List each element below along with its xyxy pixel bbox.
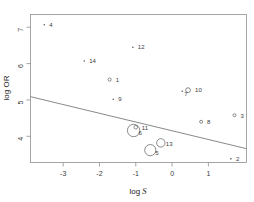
x-axis-title-plain: log bbox=[129, 187, 140, 196]
point-label: 2 bbox=[236, 156, 240, 162]
point-label: 3 bbox=[241, 113, 245, 119]
point-dot-marker bbox=[83, 60, 85, 62]
point-bubble-marker bbox=[233, 114, 236, 117]
y-axis-ticks: 7654 bbox=[18, 27, 31, 141]
data-point-2: 2 bbox=[230, 156, 240, 162]
point-label: 11 bbox=[142, 125, 149, 131]
y-axis-title: log OR bbox=[2, 75, 11, 100]
data-point-3: 3 bbox=[233, 113, 245, 119]
x-tick-label: 1 bbox=[206, 170, 210, 177]
point-bubble-marker bbox=[145, 145, 156, 156]
data-point-13: 13 bbox=[157, 139, 174, 147]
point-label: 8 bbox=[207, 119, 211, 125]
point-label: 10 bbox=[195, 87, 202, 93]
point-label: 9 bbox=[118, 96, 122, 102]
x-axis-title-italic: S bbox=[142, 186, 147, 196]
plot-canvas: -3-2-101 7654 4121411079381161352 log S … bbox=[0, 0, 254, 202]
point-dot-marker bbox=[132, 46, 134, 48]
x-tick-label: 0 bbox=[170, 170, 174, 177]
y-tick-label: 6 bbox=[18, 64, 25, 68]
point-dot-marker bbox=[43, 24, 45, 26]
data-point-12: 12 bbox=[132, 44, 145, 50]
data-point-1: 1 bbox=[108, 77, 120, 83]
x-tick-label: -2 bbox=[96, 170, 102, 177]
data-point-10: 10 bbox=[186, 87, 203, 93]
point-dot-marker bbox=[230, 158, 232, 160]
x-axis-title: log S bbox=[129, 186, 147, 196]
point-label: 6 bbox=[139, 130, 143, 136]
data-point-5: 5 bbox=[145, 145, 160, 156]
point-label: 7 bbox=[184, 91, 188, 97]
data-point-6: 6 bbox=[127, 124, 142, 136]
data-point-14: 14 bbox=[83, 58, 96, 64]
point-dot-marker bbox=[112, 98, 114, 100]
x-axis-ticks: -3-2-101 bbox=[60, 163, 210, 177]
x-tick-label: -1 bbox=[133, 170, 139, 177]
regression-fit-line bbox=[31, 97, 247, 149]
point-bubble-marker bbox=[200, 120, 203, 123]
point-bubble-marker bbox=[134, 125, 138, 129]
data-point-7: 7 bbox=[181, 90, 188, 97]
point-label: 12 bbox=[138, 44, 145, 50]
y-tick-label: 5 bbox=[18, 100, 25, 104]
point-dot-marker bbox=[181, 90, 183, 92]
data-point-8: 8 bbox=[200, 119, 212, 125]
regression-line bbox=[31, 97, 247, 149]
point-label: 14 bbox=[89, 58, 96, 64]
point-label: 13 bbox=[166, 141, 173, 147]
point-bubble-marker bbox=[157, 139, 165, 147]
point-label: 4 bbox=[49, 22, 53, 28]
y-tick-label: 4 bbox=[18, 137, 25, 141]
point-label: 5 bbox=[155, 150, 159, 156]
point-bubble-marker bbox=[108, 78, 111, 81]
plot-frame-border bbox=[31, 15, 247, 163]
point-label: 1 bbox=[116, 77, 120, 83]
scatter-plot-figure: -3-2-101 7654 4121411079381161352 log S … bbox=[0, 0, 254, 202]
y-tick-label: 7 bbox=[18, 28, 25, 32]
x-tick-label: -3 bbox=[60, 170, 66, 177]
data-point-4: 4 bbox=[43, 22, 53, 28]
data-point-9: 9 bbox=[112, 96, 122, 102]
